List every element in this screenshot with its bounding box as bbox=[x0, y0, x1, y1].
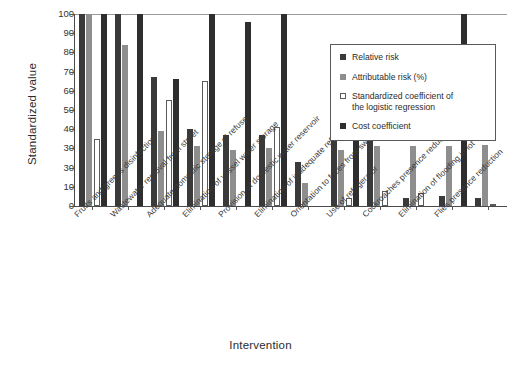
x-axis-category-labels: Fruits and greens disinfectionWastewater… bbox=[0, 206, 521, 336]
legend-entry: Standardized coefficient of the logistic… bbox=[340, 91, 487, 112]
bar bbox=[79, 14, 85, 206]
bar bbox=[122, 45, 128, 206]
bar bbox=[86, 14, 92, 206]
y-axis-title: Standardized value bbox=[26, 14, 38, 214]
legend-entry: Cost coefficient bbox=[340, 121, 487, 132]
bar bbox=[482, 145, 488, 206]
y-tick-mark bbox=[70, 72, 74, 73]
legend-swatch bbox=[340, 74, 346, 80]
bar bbox=[475, 198, 481, 206]
legend-swatch bbox=[340, 54, 346, 60]
legend-label: Attributable risk (%) bbox=[352, 72, 427, 83]
legend-entry: Relative risk bbox=[340, 52, 487, 63]
y-tick-mark bbox=[70, 168, 74, 169]
y-tick-mark bbox=[70, 52, 74, 53]
legend-swatch bbox=[340, 123, 346, 129]
bar-chart-figure: Standardized value 100908070605040303010… bbox=[0, 0, 521, 372]
legend-label: Cost coefficient bbox=[352, 121, 411, 132]
legend-swatch bbox=[340, 93, 346, 99]
chart-legend: Relative riskAttributable risk (%)Standa… bbox=[330, 44, 496, 141]
y-tick-mark bbox=[70, 33, 74, 34]
legend-label: Relative risk bbox=[352, 52, 399, 63]
legend-label: Standardized coefficient of the logistic… bbox=[352, 91, 453, 112]
y-tick-mark bbox=[70, 206, 74, 207]
y-tick-mark bbox=[70, 148, 74, 149]
legend-entry: Attributable risk (%) bbox=[340, 72, 487, 83]
y-tick-mark bbox=[70, 110, 74, 111]
x-axis-title: Intervention bbox=[0, 339, 521, 351]
y-tick-mark bbox=[70, 91, 74, 92]
y-tick-mark bbox=[70, 14, 74, 15]
y-tick-mark bbox=[70, 187, 74, 188]
y-tick-mark bbox=[70, 129, 74, 130]
